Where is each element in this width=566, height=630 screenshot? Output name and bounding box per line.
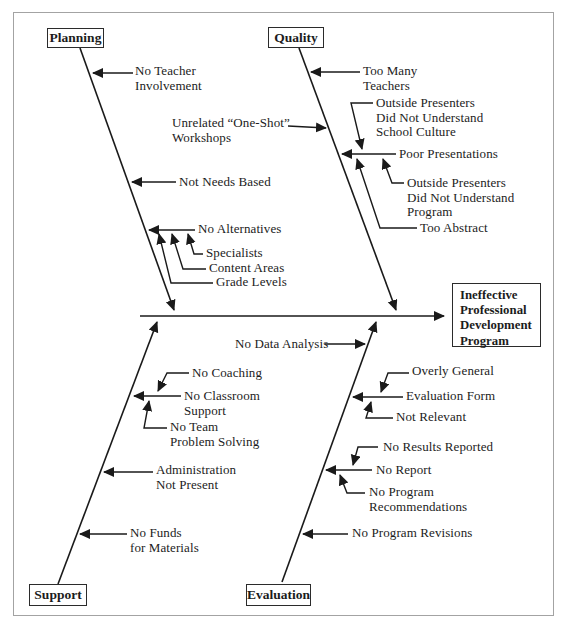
cause-no-alternatives: No Alternatives	[198, 222, 281, 237]
cause-overly-general: Overly General	[412, 364, 494, 379]
category-box-planning: Planning	[47, 28, 104, 48]
cause-no-team-problem-solving: No Team Problem Solving	[170, 420, 259, 449]
branch-grade-levels-line	[159, 234, 213, 283]
cause-outside-presenters-program: Outside Presenters Did Not Understand Pr…	[407, 176, 514, 220]
effect-box: Ineffective Professional Development Pro…	[452, 283, 541, 347]
cause-outside-presenters-school-culture: Outside Presenters Did Not Understand Sc…	[376, 96, 483, 140]
cause-no-program-recommendations: No Program Recommendations	[369, 485, 467, 514]
cause-poor-presentations: Poor Presentations	[399, 147, 498, 162]
cause-too-abstract: Too Abstract	[420, 221, 488, 236]
cause-not-relevant: Not Relevant	[396, 410, 466, 425]
cause-evaluation-form: Evaluation Form	[406, 389, 495, 404]
cause-no-results-reported: No Results Reported	[383, 440, 493, 455]
branch-outside-presenters-culture-line	[351, 103, 373, 149]
category-box-quality: Quality	[268, 27, 324, 48]
fishbone-diagram: Planning Quality Support Evaluation Inef…	[0, 0, 566, 630]
cause-not-needs-based: Not Needs Based	[179, 175, 271, 190]
branch-overly-general-line	[381, 373, 409, 392]
category-box-evaluation: Evaluation	[246, 584, 311, 606]
cause-administration-not-present: Administration Not Present	[156, 463, 236, 492]
cause-unrelated-one-shot-workshops: Unrelated “One-Shot” Workshops	[172, 116, 290, 145]
evaluation-bone-line	[282, 322, 376, 582]
branch-no-results-reported-line	[353, 447, 378, 465]
branch-outside-presenters-program-line	[383, 159, 404, 183]
branch-no-program-recommendations-line	[340, 475, 365, 493]
cause-too-many-teachers: Too Many Teachers	[363, 64, 417, 93]
branch-unrelated-one-shot-line	[288, 126, 326, 128]
cause-no-funds-for-materials: No Funds for Materials	[130, 526, 199, 555]
cause-no-classroom-support: No Classroom Support	[184, 389, 260, 418]
cause-no-coaching: No Coaching	[192, 366, 262, 381]
cause-no-data-analysis: No Data Analysis	[235, 337, 328, 352]
cause-no-teacher-involvement: No Teacher Involvement	[135, 64, 202, 93]
cause-no-report: No Report	[376, 463, 431, 478]
branch-not-relevant-line	[366, 402, 393, 418]
cause-grade-levels: Grade Levels	[216, 275, 287, 290]
branch-no-team-problem-solving-line	[144, 401, 167, 428]
branch-specialists-line	[188, 234, 203, 254]
cause-no-program-revisions: No Program Revisions	[352, 526, 472, 541]
cause-specialists: Specialists	[206, 246, 263, 261]
category-box-support: Support	[29, 584, 87, 606]
